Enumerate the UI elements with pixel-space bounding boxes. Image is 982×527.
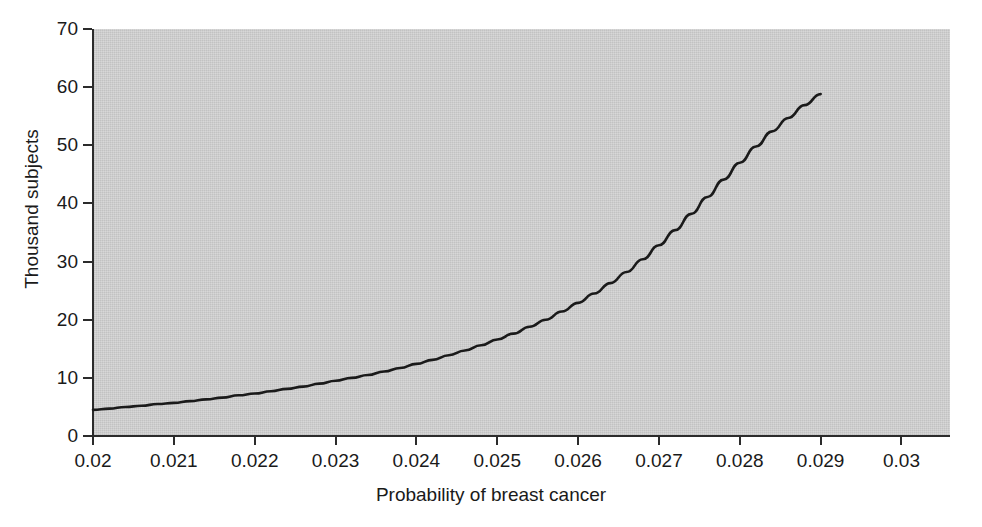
y-axis-tick-label: 60	[6, 77, 78, 96]
y-axis-tick-mark	[83, 435, 92, 437]
x-axis-tick-label: 0.023	[291, 450, 381, 472]
y-axis-tick-label: 10	[6, 368, 78, 387]
x-axis-tick-mark	[335, 436, 337, 445]
x-axis-tick-mark	[577, 436, 579, 445]
y-axis-tick-mark	[83, 202, 92, 204]
y-axis-line	[92, 29, 94, 437]
x-axis-tick-label: 0.03	[856, 450, 946, 472]
x-axis-tick-mark	[739, 436, 741, 445]
y-axis-tick-mark	[83, 261, 92, 263]
x-axis-tick-mark	[496, 436, 498, 445]
y-axis-tick-mark	[83, 377, 92, 379]
x-axis-tick-mark	[92, 436, 94, 445]
y-axis-tick-label: 70	[6, 19, 78, 38]
x-axis-tick-label: 0.02	[48, 450, 138, 472]
y-axis-title: Thousand subjects	[21, 109, 43, 309]
x-axis-tick-label: 0.026	[533, 450, 623, 472]
x-axis-tick-mark	[820, 436, 822, 445]
y-axis-tick-mark	[83, 28, 92, 30]
x-axis-tick-label: 0.028	[695, 450, 785, 472]
y-axis-tick-label: 0	[6, 426, 78, 445]
y-axis-tick-label: 20	[6, 310, 78, 329]
x-axis-tick-mark	[254, 436, 256, 445]
x-axis-tick-mark	[658, 436, 660, 445]
plot-background-texture	[93, 29, 950, 436]
x-axis-tick-label: 0.029	[776, 450, 866, 472]
x-axis-tick-label: 0.025	[452, 450, 542, 472]
x-axis-tick-label: 0.027	[614, 450, 704, 472]
x-axis-tick-label: 0.021	[129, 450, 219, 472]
y-axis-tick-mark	[83, 86, 92, 88]
x-axis-tick-mark	[900, 436, 902, 445]
chart-figure: 010203040506070 0.020.0210.0220.0230.024…	[0, 0, 982, 527]
x-axis-tick-label: 0.024	[371, 450, 461, 472]
x-axis-title: Probability of breast cancer	[0, 484, 982, 506]
x-axis-tick-mark	[415, 436, 417, 445]
x-axis-tick-mark	[173, 436, 175, 445]
plot-area	[93, 29, 950, 436]
x-axis-tick-label: 0.022	[210, 450, 300, 472]
y-axis-tick-mark	[83, 144, 92, 146]
y-axis-tick-mark	[83, 319, 92, 321]
